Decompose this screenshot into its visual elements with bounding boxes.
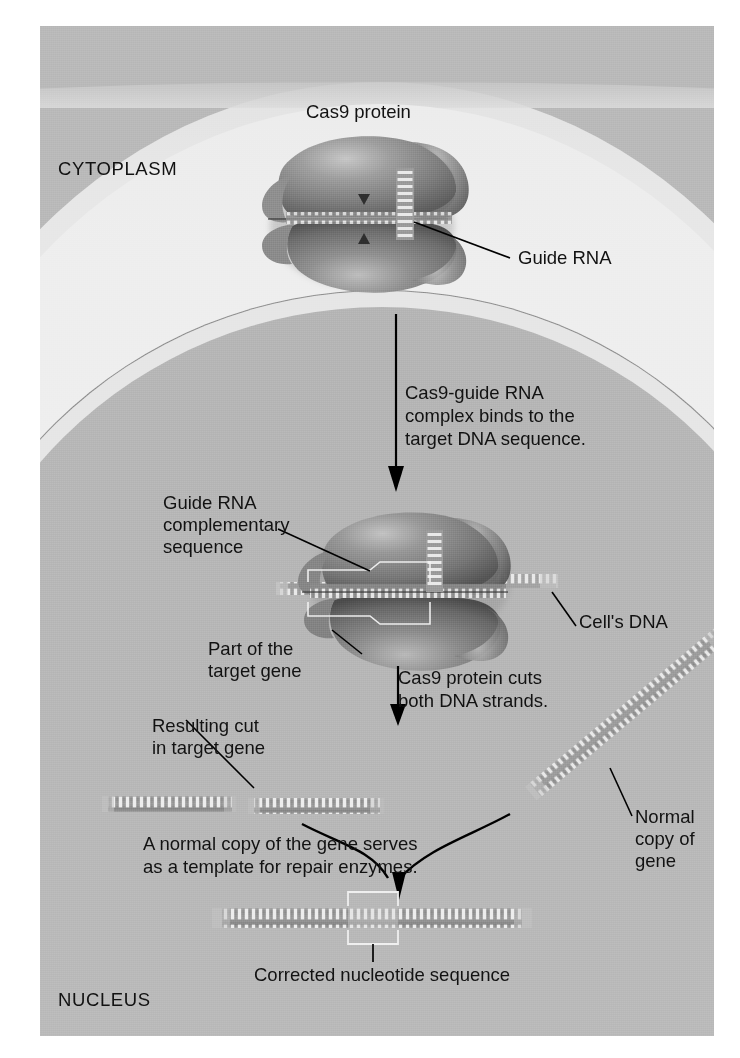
step-2-text: Cas9 protein cuts both DNA strands. bbox=[398, 666, 548, 712]
resulting-cut-label: Resulting cut in target gene bbox=[152, 715, 265, 759]
corrected-sequence-label: Corrected nucleotide sequence bbox=[254, 964, 510, 986]
nucleus-label: NUCLEUS bbox=[58, 989, 151, 1011]
guide-rna-label: Guide RNA bbox=[518, 247, 612, 269]
cas9-protein-graphic-2 bbox=[276, 513, 558, 671]
cas9-protein-label: Cas9 protein bbox=[306, 101, 411, 123]
guide-rna-stem-2 bbox=[426, 530, 443, 592]
step-1-text: Cas9-guide RNA complex binds to the targ… bbox=[405, 381, 586, 450]
cells-dna-label: Cell's DNA bbox=[579, 611, 668, 633]
guide-rna-stem-1 bbox=[396, 168, 414, 240]
cytoplasm-label: CYTOPLASM bbox=[58, 158, 177, 180]
part-of-target-gene-label: Part of the target gene bbox=[208, 638, 302, 682]
leader-normal-copy bbox=[610, 768, 632, 816]
guide-rna-complementary-label: Guide RNA complementary sequence bbox=[163, 492, 289, 558]
cut-fragment-left-graphic bbox=[102, 796, 236, 812]
crispr-diagram-figure: CYTOPLASM NUCLEUS Cas9 protein Guide RNA… bbox=[40, 26, 714, 1036]
step-3-text: A normal copy of the gene serves as a te… bbox=[143, 832, 418, 878]
cut-fragment-right-graphic bbox=[248, 798, 384, 814]
leader-cells-dna bbox=[552, 592, 576, 626]
normal-copy-strand-graphic bbox=[525, 626, 714, 800]
cas9-protein-graphic-1 bbox=[262, 136, 469, 292]
repaired-strand-graphic bbox=[212, 892, 532, 962]
normal-copy-label: Normal copy of gene bbox=[635, 806, 695, 872]
arrow-step-1 bbox=[388, 314, 404, 492]
